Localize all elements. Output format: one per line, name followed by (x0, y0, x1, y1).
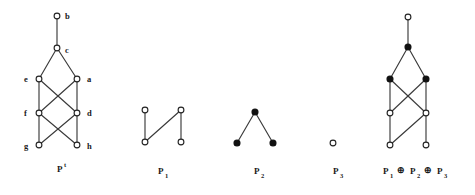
sum-caption-part-7-sub: 3 (444, 172, 448, 179)
node-sum-s-bottom-right[interactable] (423, 142, 429, 148)
node-pt-g[interactable] (36, 142, 42, 148)
edge-sum-s-apex-s-mid-right (408, 47, 426, 79)
vertex-label-d: d (87, 108, 92, 118)
caption-subscript-p1: 1 (165, 172, 168, 179)
vertex-labels-layer: bceafdgh (24, 11, 92, 151)
node-p1-p1-top-right[interactable] (178, 107, 184, 113)
node-pt-e[interactable] (36, 76, 42, 82)
node-sum-s-top[interactable] (405, 14, 411, 20)
node-pt-f[interactable] (36, 110, 42, 116)
sum-caption: P1⊕P2⊕P3 (383, 165, 448, 179)
sum-caption-part-4-sub: 2 (417, 172, 420, 179)
caption-base-pt: P (57, 164, 63, 174)
edge-sum-s-apex-s-mid-left (390, 47, 408, 79)
node-sum-s-low-left[interactable] (387, 110, 393, 116)
node-sum-s-apex[interactable] (405, 44, 411, 50)
node-pt-h[interactable] (74, 142, 80, 148)
node-p3-p3-single[interactable] (330, 140, 336, 146)
sum-caption-part-6-base: P (437, 166, 443, 176)
vertex-label-c: c (65, 45, 69, 55)
vertex-label-g: g (24, 141, 29, 151)
edge-sum-s-bottom-left-s-low-right (390, 113, 426, 145)
caption-p3: P3 (333, 166, 344, 179)
node-sum-s-bottom-left[interactable] (387, 142, 393, 148)
sum-caption-part-1-sub: 1 (390, 172, 393, 179)
edge-p1-p1-bottom-left-p1-top-right (145, 110, 181, 142)
vertex-label-e: e (24, 74, 28, 84)
sum-caption-part-3-base: P (410, 166, 416, 176)
sum-caption-part-2-op: ⊕ (397, 165, 405, 175)
caption-p1: P1 (158, 166, 168, 179)
edge-p2-p2-apex-p2-bottom-right (255, 112, 273, 143)
edges-layer (39, 16, 426, 145)
node-p1-p1-top-left[interactable] (142, 107, 148, 113)
node-pt-b[interactable] (54, 13, 60, 19)
caption-base-p1: P (158, 166, 164, 176)
node-sum-s-mid-right[interactable] (423, 76, 429, 82)
node-p2-p2-bottom-left[interactable] (234, 140, 240, 146)
edge-p2-p2-apex-p2-bottom-left (237, 112, 255, 143)
node-pt-a[interactable] (74, 76, 80, 82)
caption-subscript-p2: 2 (261, 172, 264, 179)
node-sum-s-low-right[interactable] (423, 110, 429, 116)
vertex-label-h: h (87, 141, 92, 151)
node-sum-s-mid-left[interactable] (387, 76, 393, 82)
node-pt-c[interactable] (54, 45, 60, 51)
figure-labels-layer: PtP1P2P3P1⊕P2⊕P3 (57, 161, 448, 179)
sum-caption-part-5-op: ⊕ (424, 165, 432, 175)
edge-pt-c-e (39, 48, 57, 79)
caption-base-p3: P (333, 166, 339, 176)
node-p2-p2-bottom-right[interactable] (270, 140, 276, 146)
sum-caption-part-0-base: P (383, 166, 389, 176)
figure-root: bceafdgh PtP1P2P3P1⊕P2⊕P3 (0, 0, 475, 195)
vertex-label-b: b (65, 11, 70, 21)
hasse-diagram-canvas: bceafdgh PtP1P2P3P1⊕P2⊕P3 (0, 0, 475, 195)
caption-superscript-pt: t (64, 161, 67, 168)
caption-base-p2: P (254, 166, 260, 176)
node-p1-p1-bottom-right[interactable] (178, 139, 184, 145)
node-p1-p1-bottom-left[interactable] (142, 139, 148, 145)
node-p2-p2-apex[interactable] (252, 109, 258, 115)
nodes-layer (36, 13, 429, 148)
caption-p2: P2 (254, 166, 264, 179)
vertex-label-f: f (24, 108, 27, 118)
caption-subscript-p3: 3 (340, 172, 344, 179)
vertex-label-a: a (87, 74, 92, 84)
caption-pt: Pt (57, 161, 67, 174)
node-pt-d[interactable] (74, 110, 80, 116)
